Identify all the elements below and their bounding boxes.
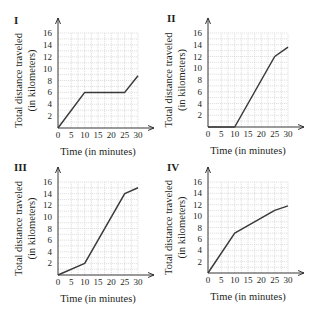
panel-label: II	[167, 12, 176, 24]
x-tick-label: 10	[230, 129, 240, 139]
panel-iii: 051015202530246810121416Time (in minutes…	[13, 161, 154, 305]
y-tick-label: 10	[193, 63, 203, 73]
grid	[208, 182, 288, 273]
y-axis-title-line1: Total distance traveled	[163, 179, 174, 275]
x-tick-label: 0	[206, 275, 211, 285]
x-tick-label: 30	[284, 275, 294, 285]
y-axis-title-line2: (in kilometers)	[176, 196, 188, 259]
y-tick-label: 14	[43, 189, 53, 199]
x-axis-title: Time (in minutes)	[60, 146, 136, 158]
y-tick-label: 12	[193, 52, 202, 62]
y-tick-label: 16	[193, 177, 203, 187]
y-axis-title-line1: Total distance traveled	[13, 32, 24, 128]
y-tick-label: 2	[198, 110, 203, 120]
x-tick-label: 10	[80, 277, 90, 287]
x-tick-label: 10	[230, 275, 240, 285]
y-tick-label: 10	[43, 212, 53, 222]
x-tick-label: 15	[244, 275, 254, 285]
x-tick-label: 0	[56, 130, 61, 140]
y-tick-label: 6	[48, 87, 53, 97]
y-tick-label: 12	[193, 200, 202, 210]
x-axis-title: Time (in minutes)	[210, 145, 286, 157]
x-tick-label: 5	[219, 129, 224, 139]
x-tick-label: 30	[284, 129, 294, 139]
y-axis-title-line2: (in kilometers)	[26, 49, 38, 112]
grid	[208, 33, 288, 127]
x-tick-label: 30	[134, 277, 144, 287]
y-tick-label: 8	[48, 224, 53, 234]
x-tick-label: 25	[270, 129, 280, 139]
y-tick-label: 8	[198, 223, 203, 233]
y-tick-label: 16	[43, 28, 53, 38]
y-tick-label: 4	[198, 245, 203, 255]
y-tick-label: 14	[193, 188, 203, 198]
y-axis-title-line1: Total distance traveled	[163, 32, 174, 128]
x-tick-label: 0	[56, 277, 61, 287]
panel-ii: 051015202530246810121416Time (in minutes…	[163, 12, 304, 157]
figure-four-panel-graphs: 051015202530246810121416Time (in minutes…	[0, 0, 327, 326]
y-tick-label: 4	[48, 99, 53, 109]
y-tick-label: 8	[198, 75, 203, 85]
x-tick-label: 20	[257, 129, 267, 139]
x-tick-label: 25	[270, 275, 280, 285]
y-tick-label: 10	[43, 64, 53, 74]
y-tick-label: 6	[198, 87, 203, 97]
x-axis-title: Time (in minutes)	[210, 291, 286, 303]
y-tick-label: 6	[198, 234, 203, 244]
x-axis-title: Time (in minutes)	[60, 293, 136, 305]
y-tick-label: 14	[193, 40, 203, 50]
grid	[58, 182, 138, 275]
y-tick-label: 4	[198, 99, 203, 109]
x-tick-label: 20	[107, 277, 117, 287]
y-tick-label: 12	[43, 200, 52, 210]
y-tick-label: 16	[43, 177, 53, 187]
y-tick-label: 14	[43, 40, 53, 50]
y-tick-label: 8	[48, 76, 53, 86]
x-tick-label: 5	[69, 277, 74, 287]
y-tick-label: 4	[48, 247, 53, 257]
x-tick-label: 25	[120, 130, 130, 140]
y-axis-title-line2: (in kilometers)	[26, 197, 38, 260]
panel-iv: 051015202530246810121416Time (in minutes…	[163, 161, 304, 303]
x-tick-label: 20	[107, 130, 117, 140]
panel-i: 051015202530246810121416Time (in minutes…	[13, 14, 154, 158]
x-tick-label: 20	[257, 275, 267, 285]
x-tick-label: 5	[219, 275, 224, 285]
y-tick-label: 2	[48, 258, 53, 268]
x-tick-label: 15	[94, 130, 104, 140]
x-tick-label: 25	[120, 277, 130, 287]
panel-label: IV	[167, 161, 179, 173]
y-tick-label: 2	[198, 257, 203, 267]
y-tick-label: 10	[193, 211, 203, 221]
x-tick-label: 15	[244, 129, 254, 139]
x-tick-label: 10	[80, 130, 90, 140]
y-tick-label: 6	[48, 235, 53, 245]
y-tick-label: 16	[193, 28, 203, 38]
y-tick-label: 2	[48, 111, 53, 121]
y-axis-title-line2: (in kilometers)	[176, 48, 188, 111]
panel-label: I	[14, 14, 18, 26]
chart-canvas: 051015202530246810121416Time (in minutes…	[0, 0, 327, 326]
x-tick-label: 0	[206, 129, 211, 139]
panel-label: III	[14, 161, 27, 173]
grid	[58, 33, 138, 128]
x-tick-label: 15	[94, 277, 104, 287]
y-tick-label: 12	[43, 52, 52, 62]
x-tick-label: 5	[69, 130, 74, 140]
y-axis-title-line1: Total distance traveled	[13, 180, 24, 276]
x-tick-label: 30	[134, 130, 144, 140]
